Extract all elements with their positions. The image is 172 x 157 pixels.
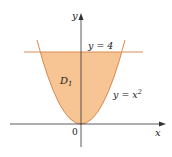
line-label: y = 4 bbox=[87, 40, 113, 51]
curve-label: y = x2 bbox=[112, 88, 142, 100]
region-diagram: y x 0 y = 4 D1 y = x2 bbox=[0, 0, 172, 157]
x-axis-arrow-icon bbox=[159, 122, 166, 127]
diagram-canvas: y x 0 y = 4 D1 y = x2 bbox=[0, 0, 172, 157]
y-axis-arrow-icon bbox=[79, 13, 84, 20]
y-axis-label: y bbox=[71, 10, 78, 21]
x-axis-label: x bbox=[155, 127, 161, 138]
origin-label: 0 bbox=[72, 127, 78, 137]
